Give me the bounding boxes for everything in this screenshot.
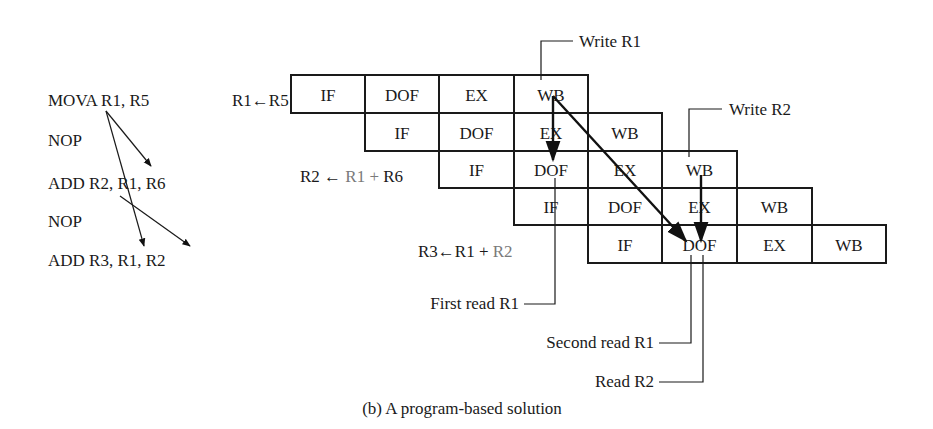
stage-label: IF xyxy=(617,236,632,255)
equation-part: R2 ← xyxy=(300,167,345,186)
pipeline-cell-if: IF xyxy=(365,113,439,151)
pipeline-cell-wb: WB xyxy=(812,225,886,263)
dependency-arrow-icon xyxy=(106,111,151,166)
pipeline-cell-dof: DOF xyxy=(588,188,662,225)
program-listing: MOVA R1, R5NOPADD R2, R1, R6NOPADD R3, R… xyxy=(48,91,166,270)
callout-label: Write R1 xyxy=(579,32,641,51)
pipeline-cell-dof: DOF xyxy=(662,225,737,263)
callout-read-r2: Read R2 xyxy=(595,255,703,391)
figure-caption: (b) A program-based solution xyxy=(362,399,562,418)
pipeline-cell-dof: DOF xyxy=(514,151,588,188)
stage-label: EX xyxy=(763,236,786,255)
stage-label: IF xyxy=(543,198,558,217)
leader-line xyxy=(689,109,722,157)
pipeline-cell-dof: DOF xyxy=(365,75,439,113)
stage-label: IF xyxy=(320,86,335,105)
pipeline-diagram: MOVA R1, R5NOPADD R2, R1, R6NOPADD R3, R… xyxy=(0,0,933,429)
instruction-line: ADD R3, R1, R2 xyxy=(48,251,166,270)
callout-second-read-r1: Second read R1 xyxy=(546,255,691,352)
pipeline-cell-wb: WB xyxy=(662,151,737,188)
equation-part: R3←R1 + xyxy=(418,242,489,261)
equation-part: R2 xyxy=(489,242,513,261)
pipeline-cell-wb: WB xyxy=(737,188,812,225)
pipeline-cell-dof: DOF xyxy=(439,113,514,151)
stage-label: IF xyxy=(394,124,409,143)
pipeline-cell-wb: WB xyxy=(514,75,588,113)
stage-label: DOF xyxy=(608,198,642,217)
stage-label: IF xyxy=(469,161,484,180)
pipeline-cell-if: IF xyxy=(291,75,365,113)
stage-label: WB xyxy=(611,124,638,143)
equation-part: R1 + xyxy=(345,167,379,186)
eq-r1: R1←R5 xyxy=(232,91,289,110)
leader-line xyxy=(659,255,703,382)
equation-part: R5 xyxy=(269,91,289,110)
equation-part: R6 xyxy=(379,167,403,186)
instruction-line: NOP xyxy=(48,131,82,150)
callout-label: First read R1 xyxy=(430,294,519,313)
stage-label: EX xyxy=(614,161,637,180)
callout-label: Read R2 xyxy=(595,372,654,391)
stage-label: DOF xyxy=(385,86,419,105)
equation-part: ← xyxy=(252,91,269,110)
stage-label: EX xyxy=(688,198,711,217)
instruction-line: ADD R2, R1, R6 xyxy=(48,174,166,193)
stage-label: WB xyxy=(761,198,788,217)
pipeline-cell-if: IF xyxy=(588,225,662,263)
stage-label: DOF xyxy=(459,124,493,143)
stage-label: DOF xyxy=(534,161,568,180)
pipeline-cell-if: IF xyxy=(514,188,588,225)
eq-r2: R2 ← R1 + R6 xyxy=(300,167,403,186)
pipeline-cell-ex: EX xyxy=(514,113,588,151)
equation-part: R1 xyxy=(232,91,252,110)
leader-line xyxy=(659,255,691,343)
pipeline-cell-ex: EX xyxy=(588,151,662,188)
stage-label: EX xyxy=(465,86,488,105)
stage-label: DOF xyxy=(682,236,716,255)
instruction-line: MOVA R1, R5 xyxy=(48,91,149,110)
stage-label: WB xyxy=(537,86,564,105)
stage-label: WB xyxy=(835,236,862,255)
stage-label: WB xyxy=(686,161,713,180)
callout-write-r1: Write R1 xyxy=(541,32,641,80)
callout-write-r2: Write R2 xyxy=(689,100,791,157)
pipeline-cell-ex: EX xyxy=(439,75,514,113)
instruction-line: NOP xyxy=(48,212,82,231)
pipeline-cell-ex: EX xyxy=(662,188,737,225)
pipeline-cell-ex: EX xyxy=(737,225,812,263)
eq-r3: R3←R1 + R2 xyxy=(418,242,513,261)
callout-label: Write R2 xyxy=(729,100,791,119)
stage-label: EX xyxy=(540,124,563,143)
callout-label: Second read R1 xyxy=(546,333,654,352)
dependency-arrow-icon xyxy=(120,196,190,246)
pipeline-cell-if: IF xyxy=(439,151,514,188)
